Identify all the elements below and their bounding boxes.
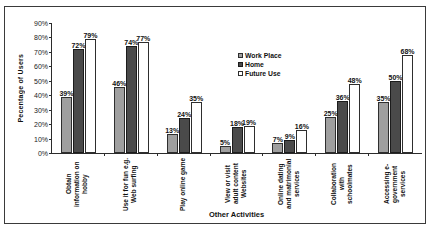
- bar-value-label: 16%: [295, 123, 309, 130]
- y-axis-tick-mark: [49, 153, 52, 154]
- bar-future: 19%: [244, 126, 255, 153]
- legend-item-work-place: Work Place: [238, 51, 282, 60]
- y-axis-tick-label: 30%: [34, 106, 48, 113]
- bar-value-label: 24%: [177, 111, 191, 118]
- x-axis-category-labels: Obtain information on hobbyUse it for fu…: [51, 155, 422, 211]
- chart-screenshot: Pecentage of Users 39%72%79%46%74%77%13%…: [0, 0, 432, 231]
- bar-home: 9%: [284, 140, 295, 153]
- y-axis-tick-label: 90%: [34, 20, 48, 27]
- bar-work: 25%: [325, 117, 336, 153]
- bar-future: 79%: [85, 39, 96, 153]
- bar-value-label: 13%: [165, 127, 179, 134]
- bar-value-label: 50%: [389, 74, 403, 81]
- y-axis-tick-label: 70%: [34, 48, 48, 55]
- bar-group: 5%18%19%: [211, 23, 264, 153]
- bar-home: 18%: [232, 127, 243, 153]
- bar-value-label: 5%: [220, 139, 230, 146]
- bar-home: 36%: [337, 101, 348, 153]
- legend-item-home: Home: [238, 60, 282, 69]
- bar-value-label: 25%: [324, 110, 338, 117]
- bar-work: 5%: [220, 146, 231, 153]
- x-axis-category-label: Accessing e-government services: [383, 157, 407, 211]
- bar-group: 7%9%16%: [263, 23, 316, 153]
- bar-group: 13%24%35%: [158, 23, 211, 153]
- x-axis-category: Online dating and matrimonial services: [263, 155, 316, 211]
- x-axis-category-label: Obtain information on hobby: [65, 157, 89, 211]
- legend-label-work-place: Work Place: [245, 51, 282, 60]
- x-axis-category: Obtain information on hobby: [51, 155, 104, 211]
- y-axis-title-text: Pecentage of Users: [17, 54, 24, 123]
- bar-group: 25%36%48%: [316, 23, 369, 153]
- bar-home: 72%: [73, 49, 84, 153]
- bar-value-label: 77%: [136, 35, 150, 42]
- bar-value-label: 48%: [348, 77, 362, 84]
- legend-label-future-use: Future Use: [245, 69, 281, 78]
- legend-swatch-icon-home: [238, 62, 243, 67]
- bar-value-label: 35%: [377, 95, 391, 102]
- y-axis-tick-label: 10%: [34, 135, 48, 142]
- legend-item-future-use: Future Use: [238, 69, 282, 78]
- bar-value-label: 7%: [273, 136, 283, 143]
- y-axis-tick-label: 50%: [34, 77, 48, 84]
- y-axis-tick-mark: [49, 37, 52, 38]
- bar-home: 74%: [126, 46, 137, 153]
- y-axis-title: Pecentage of Users: [14, 23, 26, 154]
- x-axis-category-label: View or visit adult content Websites: [224, 157, 248, 211]
- x-axis-title: Other Activities: [51, 210, 422, 219]
- x-axis-category: Accessing e-government services: [369, 155, 422, 211]
- y-axis-tick-mark: [49, 66, 52, 67]
- bar-home: 50%: [390, 81, 401, 153]
- plot-area: 39%72%79%46%74%77%13%24%35%5%18%19%7%9%1…: [51, 23, 422, 154]
- legend-swatch-icon-future-use: [238, 71, 243, 76]
- bar-value-label: 79%: [83, 32, 97, 39]
- y-axis-tick-mark: [49, 23, 52, 24]
- y-axis-tick-mark: [49, 110, 52, 111]
- y-axis-tick-label: 20%: [34, 121, 48, 128]
- bar-value-label: 39%: [59, 90, 73, 97]
- chart-figure-frame: Pecentage of Users 39%72%79%46%74%77%13%…: [4, 6, 426, 224]
- bar-value-label: 9%: [285, 133, 295, 140]
- y-axis-tick-label: 40%: [34, 92, 48, 99]
- chart-legend: Work Place Home Future Use: [238, 51, 282, 79]
- x-axis-category-label: Use it for fun e.g. Web surfing: [122, 157, 138, 211]
- x-axis-category: Play online game: [157, 155, 210, 211]
- bar-groups: 39%72%79%46%74%77%13%24%35%5%18%19%7%9%1…: [52, 23, 422, 153]
- legend-label-home: Home: [245, 60, 264, 69]
- bar-value-label: 19%: [242, 119, 256, 126]
- bar-future: 35%: [191, 102, 202, 153]
- y-axis-tick-label: 80%: [34, 34, 48, 41]
- x-axis-category-label: Play online game: [179, 157, 187, 211]
- bar-work: 46%: [114, 87, 125, 153]
- bar-value-label: 46%: [112, 80, 126, 87]
- y-axis-tick-mark: [49, 124, 52, 125]
- x-axis-category: Collaboration with schoolmates: [316, 155, 369, 211]
- legend-swatch-icon-work-place: [238, 53, 243, 58]
- y-axis-tick-mark: [49, 81, 52, 82]
- bar-home: 24%: [179, 118, 190, 153]
- bar-work: 13%: [167, 134, 178, 153]
- bar-future: 48%: [349, 84, 360, 153]
- x-axis-category-label: Collaboration with schoolmates: [330, 157, 354, 211]
- bar-future: 68%: [402, 55, 413, 153]
- bar-value-label: 35%: [189, 95, 203, 102]
- x-axis-category-label: Online dating and matrimonial services: [277, 157, 301, 211]
- y-axis-tick-mark: [49, 139, 52, 140]
- y-axis-tick-mark: [49, 95, 52, 96]
- bar-value-label: 36%: [336, 94, 350, 101]
- bar-work: 7%: [272, 143, 283, 153]
- bar-future: 16%: [296, 130, 307, 153]
- bar-work: 35%: [378, 102, 389, 153]
- bar-future: 77%: [138, 42, 149, 153]
- bar-group: 35%50%68%: [369, 23, 422, 153]
- y-axis-tick-label: 0%: [38, 150, 48, 157]
- y-axis-tick-mark: [49, 52, 52, 53]
- x-axis-category: View or visit adult content Websites: [210, 155, 263, 211]
- bar-group: 39%72%79%: [52, 23, 105, 153]
- bar-group: 46%74%77%: [105, 23, 158, 153]
- y-axis-tick-label: 60%: [34, 63, 48, 70]
- bar-value-label: 68%: [401, 48, 415, 55]
- x-axis-category: Use it for fun e.g. Web surfing: [104, 155, 157, 211]
- bar-work: 39%: [61, 97, 72, 153]
- bar-value-label: 72%: [71, 42, 85, 49]
